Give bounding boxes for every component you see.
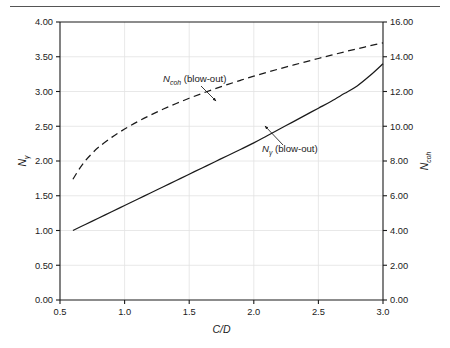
tick-label-y-left: 0.50	[35, 261, 53, 271]
ncoh-annotation-leader	[201, 86, 216, 101]
tick-label-y-right: 0.00	[390, 295, 408, 305]
tick-label-y-right: 16.00	[390, 17, 413, 27]
tick-label-y-right: 12.00	[390, 87, 413, 97]
tick-label-x: 2.5	[312, 307, 325, 317]
tick-label-y-right: 14.00	[390, 52, 413, 62]
axis-titles: C/DNγNcoh	[16, 151, 432, 335]
tick-label-x: 3.0	[377, 307, 390, 317]
tick-label-x: 2.0	[247, 307, 260, 317]
tick-label-x: 1.5	[183, 307, 196, 317]
tick-label-y-right: 10.00	[390, 122, 413, 132]
tick-label-x: 1.0	[118, 307, 131, 317]
chart-figure: 0.000.501.001.502.002.503.003.504.000.00…	[0, 0, 450, 348]
tick-label-y-left: 0.00	[35, 295, 53, 305]
tick-label-y-left: 3.50	[35, 52, 53, 62]
tick-label-y-right: 4.00	[390, 226, 408, 236]
tick-label-y-left: 2.00	[35, 156, 53, 166]
tick-label-x: 0.5	[54, 307, 67, 317]
gridlines	[60, 22, 383, 300]
axis-ticks: 0.000.501.001.502.002.503.003.504.000.00…	[35, 17, 413, 317]
tick-label-y-left: 4.00	[35, 17, 53, 27]
tick-label-y-left: 1.00	[35, 226, 53, 236]
tick-label-y-left: 3.00	[35, 87, 53, 97]
tick-label-y-right: 8.00	[390, 156, 408, 166]
series-line-ngamma	[73, 64, 383, 231]
axis-title-x: C/D	[212, 323, 231, 335]
ncoh-annotation-label: Ncoh (blow-out)	[163, 73, 226, 86]
ngamma-annotation-label: Nγ (blow-out)	[262, 143, 318, 157]
tick-label-y-right: 6.00	[390, 191, 408, 201]
data-series-group	[73, 43, 383, 231]
chart-canvas: 0.000.501.001.502.002.503.003.504.000.00…	[0, 0, 450, 348]
tick-label-y-left: 1.50	[35, 191, 53, 201]
axis-title-y-left: Nγ	[16, 155, 31, 167]
series-line-ncoh	[73, 43, 383, 179]
axis-title-y-right: Ncoh	[418, 151, 432, 170]
annotations: Ncoh (blow-out)Nγ (blow-out)	[163, 73, 318, 157]
tick-label-y-left: 2.50	[35, 122, 53, 132]
tick-label-y-right: 2.00	[390, 261, 408, 271]
